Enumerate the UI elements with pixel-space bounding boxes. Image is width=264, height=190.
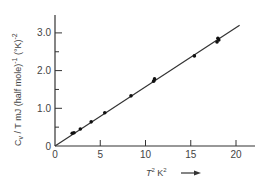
data-point — [217, 38, 221, 42]
data-point — [72, 131, 76, 135]
x-tick-label: 0 — [52, 149, 58, 160]
arrow-right-icon — [181, 171, 201, 176]
axis-ticks: 0510152001.02.03.0 — [37, 27, 242, 160]
x-tick-label: 20 — [230, 149, 242, 160]
x-axis-label: T2 K2 — [146, 167, 167, 178]
data-point — [193, 54, 197, 58]
y-tick-label: 1.0 — [37, 103, 51, 114]
data-point — [129, 94, 133, 98]
data-points — [70, 36, 220, 135]
data-point — [103, 111, 107, 115]
y-tick-label: 2.0 — [37, 65, 51, 76]
x-tick-label: 5 — [97, 149, 103, 160]
data-point — [89, 120, 93, 124]
chart: 0510152001.02.03.0 Cv / T mJ (half mole)… — [0, 0, 264, 190]
x-tick-label: 15 — [185, 149, 197, 160]
y-tick-label: 3.0 — [37, 27, 51, 38]
y-tick-label: 0 — [45, 141, 51, 152]
y-axis-label: Cv / T mJ (half mole)-1 (°K)-2 — [11, 33, 24, 146]
data-point — [153, 77, 157, 81]
x-tick-label: 10 — [140, 149, 152, 160]
data-point — [79, 127, 83, 131]
fit-line — [55, 25, 240, 146]
